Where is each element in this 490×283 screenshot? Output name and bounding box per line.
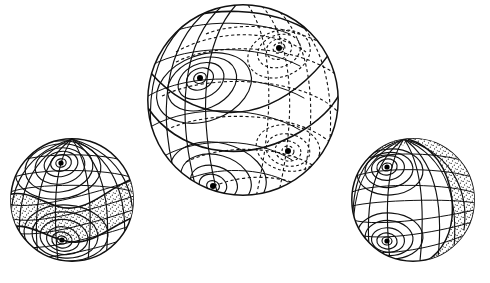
spheres-figure xyxy=(0,0,490,283)
right-sphere-lower-focus-dot xyxy=(384,238,389,243)
center-sphere-front-upper-focus-dot xyxy=(197,75,203,81)
left-sphere-upper-focus-dot xyxy=(58,160,63,165)
center-sphere-back-lower-focus-dot xyxy=(285,148,291,154)
right-sphere xyxy=(352,130,480,265)
left-sphere xyxy=(5,137,145,264)
center-sphere xyxy=(129,5,361,220)
center-sphere-front-lower-focus-dot xyxy=(210,183,216,189)
center-sphere-back-upper-focus-dot xyxy=(276,45,282,51)
figure-root xyxy=(0,0,490,283)
right-sphere-upper-focus-dot xyxy=(384,164,389,169)
